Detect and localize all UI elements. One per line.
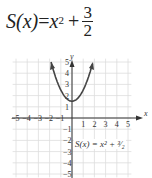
- svg-text:−2: −2: [45, 114, 54, 123]
- svg-text:1: 1: [65, 103, 69, 112]
- svg-text:−3: −3: [33, 114, 42, 123]
- curve-label: S(x) = x² + ³⁄₂: [74, 139, 126, 149]
- x-axis-arrow-icon: [136, 116, 143, 121]
- curve-right-arrow-icon: [89, 62, 94, 70]
- svg-text:−2: −2: [63, 136, 72, 145]
- svg-text:5: 5: [65, 58, 69, 67]
- svg-text:−4: −4: [63, 159, 72, 168]
- svg-text:5: 5: [126, 120, 130, 129]
- svg-text:−5: −5: [63, 170, 72, 178]
- svg-text:−1: −1: [63, 125, 72, 134]
- graph: x y −5−4−3−2−112345−5−4−3−2−112345: [0, 0, 152, 178]
- svg-text:3: 3: [104, 120, 108, 129]
- y-axis-label: y: [69, 52, 74, 61]
- svg-text:−5: −5: [11, 114, 20, 123]
- svg-text:−4: −4: [22, 114, 31, 123]
- svg-text:−3: −3: [63, 148, 72, 157]
- svg-text:3: 3: [65, 80, 69, 89]
- svg-text:−1: −1: [56, 114, 65, 123]
- x-axis-label: x: [143, 109, 148, 118]
- svg-text:1: 1: [81, 120, 85, 129]
- y-axis-arrow-icon: [70, 60, 75, 67]
- svg-text:4: 4: [115, 120, 119, 129]
- svg-text:2: 2: [92, 120, 96, 129]
- svg-text:4: 4: [65, 69, 69, 78]
